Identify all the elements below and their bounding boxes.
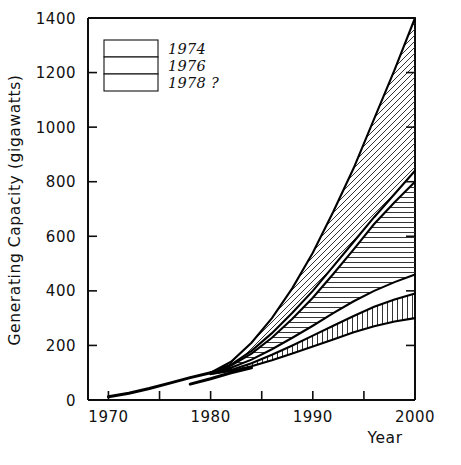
x-tick-label: 2000 <box>395 408 435 426</box>
historical-curves <box>108 368 251 397</box>
y-tick-label: 600 <box>46 228 76 246</box>
legend-label: 1974 <box>168 41 206 57</box>
y-axis-title: Generating Capacity (gigawatts) <box>6 75 24 346</box>
legend-swatch-1976 <box>104 57 158 74</box>
y-tick-label: 1000 <box>36 119 76 137</box>
x-tick-label: 1990 <box>293 408 333 426</box>
generating-capacity-chart: 0200400600800100012001400 19701980199020… <box>0 0 461 465</box>
y-tick-label: 0 <box>66 392 76 410</box>
chart-legend[interactable]: 197419761978 ? <box>104 40 219 91</box>
y-tick-label: 200 <box>46 337 76 355</box>
y-tick-label: 1400 <box>36 10 76 28</box>
legend-swatch-1978- <box>104 74 158 91</box>
legend-label: 1978 ? <box>168 75 219 91</box>
chart-figure: 0200400600800100012001400 19701980199020… <box>0 0 461 465</box>
x-axis-title: Year <box>366 429 402 447</box>
y-tick-label: 400 <box>46 282 76 300</box>
historical-line-historical <box>108 369 231 396</box>
y-tick-labels: 0200400600800100012001400 <box>36 10 76 410</box>
x-tick-label: 1970 <box>88 408 128 426</box>
legend-label: 1976 <box>168 58 206 74</box>
x-tick-label: 1980 <box>191 408 231 426</box>
y-tick-label: 800 <box>46 173 76 191</box>
x-tick-labels: 1970198019902000 <box>88 408 435 426</box>
data-bands <box>211 18 415 374</box>
y-tick-label: 1200 <box>36 64 76 82</box>
legend-swatch-1974 <box>104 40 158 57</box>
